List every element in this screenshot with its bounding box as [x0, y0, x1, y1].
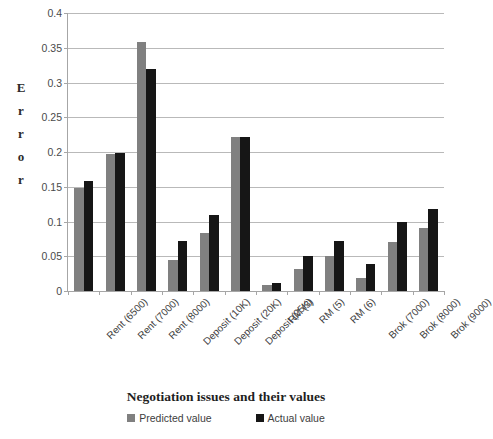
- bar-actual: [115, 153, 125, 291]
- bar-predicted: [74, 188, 84, 291]
- bar-actual: [366, 264, 376, 291]
- legend-swatch-icon: [127, 414, 135, 422]
- legend-label: Predicted value: [139, 412, 211, 424]
- y-axis-tick-mark: [64, 13, 68, 14]
- y-axis-tick-label: 0.2: [28, 147, 62, 157]
- x-axis-tick-label: RM (5): [317, 296, 346, 325]
- y-axis-tick-label: 0.4: [28, 8, 62, 18]
- bar-predicted: [137, 42, 147, 291]
- legend-label: Actual value: [268, 412, 325, 424]
- bar-predicted: [325, 256, 335, 291]
- bar-predicted: [294, 269, 304, 291]
- x-axis-title: Negotiation issues and their values: [0, 389, 452, 405]
- x-axis-tick-label: RM (6): [348, 296, 377, 325]
- bar-actual: [84, 181, 94, 291]
- gridline: [68, 117, 444, 118]
- gridline: [68, 83, 444, 84]
- y-axis-tick-label: 0.25: [28, 112, 62, 122]
- legend-entry: Predicted value: [127, 412, 211, 424]
- bar-actual: [334, 241, 344, 291]
- gridline: [68, 13, 444, 14]
- y-axis-tick-mark: [64, 256, 68, 257]
- bar-actual: [303, 256, 313, 291]
- bar-predicted: [231, 137, 241, 291]
- x-axis-tick-mark: [444, 291, 445, 295]
- bar-actual: [146, 69, 156, 291]
- x-axis-tick-labels: Rent (6500)Rent (7000)Rent (8000)Deposit…: [67, 292, 444, 388]
- y-axis-tick-mark: [64, 187, 68, 188]
- y-axis-tick-label: 0.35: [28, 43, 62, 53]
- bar-actual: [272, 283, 282, 291]
- y-axis-tick-mark: [64, 83, 68, 84]
- y-axis-tick-mark: [64, 117, 68, 118]
- bar-actual: [397, 222, 407, 292]
- y-axis-tick-label: 0.3: [28, 78, 62, 88]
- y-axis-tick-label: 0.05: [28, 251, 62, 261]
- bar-actual: [428, 209, 438, 291]
- bar-actual: [178, 241, 188, 291]
- legend-entry: Actual value: [256, 412, 325, 424]
- bar-actual: [240, 137, 250, 291]
- bar-actual: [209, 215, 219, 291]
- plot-area: [67, 13, 444, 292]
- y-axis-tick-label: 0.1: [28, 217, 62, 227]
- y-axis-tick-labels: 0.40.350.30.250.20.150.10.050: [28, 0, 62, 439]
- y-axis-tick-mark: [64, 48, 68, 49]
- y-axis-tick-label: 0: [28, 286, 62, 296]
- bar-predicted: [419, 228, 429, 291]
- legend-swatch-icon: [256, 414, 264, 422]
- bar-predicted: [356, 278, 366, 291]
- y-axis-tick-mark: [64, 152, 68, 153]
- y-axis-tick-mark: [64, 222, 68, 223]
- bar-predicted: [262, 285, 272, 291]
- gridline: [68, 48, 444, 49]
- bar-predicted: [388, 242, 398, 291]
- y-axis-tick-label: 0.15: [28, 182, 62, 192]
- bar-predicted: [168, 260, 178, 291]
- bar-predicted: [200, 233, 210, 291]
- bar-predicted: [106, 154, 116, 291]
- chart-legend: Predicted valueActual value: [0, 412, 452, 424]
